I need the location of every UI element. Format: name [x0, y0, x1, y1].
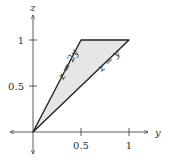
- region-diagram: 0.5 1 0.5 1 y z z = 2y z = y: [0, 0, 172, 163]
- x-tick-label: 0.5: [73, 140, 89, 151]
- y-tick-label: 1: [18, 35, 24, 46]
- horizontal-axis-label: y: [154, 127, 161, 138]
- y-tick-label: 0.5: [8, 81, 24, 92]
- vertical-axis-label: z: [29, 2, 36, 13]
- x-tick-label: 1: [126, 140, 132, 151]
